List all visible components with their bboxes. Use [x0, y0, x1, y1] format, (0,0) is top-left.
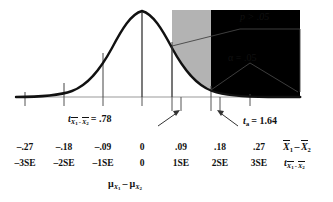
axis-row1-label: X1–X2	[283, 141, 311, 152]
observed-t-arrow	[158, 110, 180, 126]
gray-region	[172, 8, 211, 98]
observed-t-subscript-x1: X1	[71, 118, 78, 125]
axis-value-minus27: –.27	[8, 142, 42, 152]
statistical-distribution-figure: p > .05 α = .05 tX1-X2= .78 ta= 1.64 –.2…	[0, 0, 333, 202]
axis-se-minus2: –2SE	[47, 158, 81, 168]
mu-minus: –	[121, 178, 130, 189]
critical-t-subscript: a	[246, 120, 250, 128]
axis-se-2: 2SE	[203, 158, 237, 168]
axis-row2-label: tX1-X2	[284, 157, 305, 168]
observed-t-subscript-x2: X2	[82, 118, 89, 125]
observed-t-value: = .78	[89, 113, 112, 124]
alpha-callout: α = .05	[228, 52, 256, 63]
axis-se-zero: 0	[125, 158, 159, 168]
critical-t-value: = 1.64	[249, 115, 277, 126]
critical-t-arrow	[217, 110, 238, 126]
p-value-callout: p > .05	[240, 11, 269, 22]
axis-se-minus3: –3SE	[8, 158, 42, 168]
axis-row2-sub-x1: X1	[287, 162, 294, 169]
critical-t-label: ta= 1.64	[243, 115, 277, 126]
axis-row1-x2: X	[301, 141, 308, 152]
axis-se-minus1: –1SE	[86, 158, 120, 168]
axis-value-zero: 0	[125, 142, 159, 152]
distribution-svg	[0, 0, 333, 202]
axis-value-minus09: –.09	[86, 142, 120, 152]
mu-1: μ	[108, 178, 114, 189]
axis-value-27: .27	[242, 142, 276, 152]
axis-row2-sub-x2: X2	[298, 162, 305, 169]
observed-t-label: tX1-X2= .78	[68, 113, 112, 124]
axis-row1-x1: X	[283, 141, 290, 152]
axis-se-3: 3SE	[242, 158, 276, 168]
population-mean-difference-label: μX1–μX2	[108, 178, 142, 189]
axis-value-09: .09	[164, 142, 198, 152]
axis-value-18: .18	[203, 142, 237, 152]
axis-value-minus18: –.18	[47, 142, 81, 152]
axis-se-1: 1SE	[164, 158, 198, 168]
axis-row1-minus: –	[293, 141, 301, 152]
